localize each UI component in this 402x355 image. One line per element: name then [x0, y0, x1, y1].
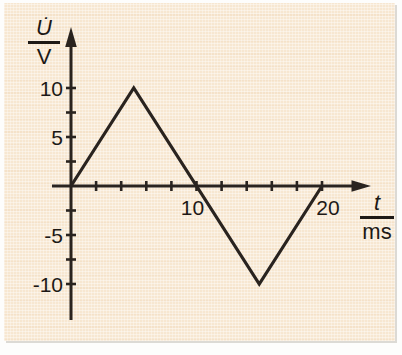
y-axis-unit: V [28, 44, 60, 69]
y-axis-symbol: U̇ [28, 15, 60, 44]
x-axis-unit: ms [360, 219, 394, 244]
figure-page: 1020-10-5510 U̇ V t ms [0, 0, 402, 355]
y-tick-label--5: -5 [44, 224, 63, 247]
x-tick-label-20: 20 [316, 196, 339, 219]
y-tick-label-5: 5 [51, 126, 63, 149]
x-axis-symbol: t [360, 190, 394, 219]
x-tick-label-10: 10 [181, 196, 204, 219]
x-axis-label: t ms [360, 190, 394, 244]
y-axis-label: U̇ V [28, 15, 60, 69]
y-tick-label--10: -10 [33, 273, 63, 296]
y-tick-label-10: 10 [40, 77, 63, 100]
y-axis-arrowhead-icon [65, 27, 77, 47]
waveform-plot: 1020-10-5510 [0, 0, 402, 355]
